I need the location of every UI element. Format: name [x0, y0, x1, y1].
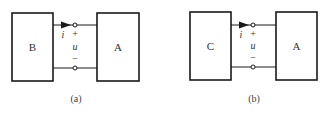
box-b-label: B: [29, 41, 36, 53]
minus-sign-b: −: [250, 52, 256, 63]
terminal-bottom-b: [251, 65, 255, 69]
caption-b: (b): [248, 93, 260, 105]
circuit-diagram: B A i + u − (a) C A i + u − (b): [0, 0, 325, 114]
terminal-bottom-a: [73, 66, 77, 70]
terminal-top-b: [251, 23, 255, 27]
voltage-label-a: u: [73, 41, 78, 52]
figure-b: C A i + u − (b): [190, 12, 317, 105]
box-c-label: C: [207, 40, 214, 52]
current-arrow-icon: [239, 22, 249, 29]
current-arrow-icon: [61, 22, 71, 29]
box-a-right-label: A: [293, 40, 301, 52]
minus-sign-a: −: [72, 53, 78, 64]
box-a-left-label: A: [114, 41, 122, 53]
plus-sign-b: +: [250, 28, 256, 39]
current-label-a: i: [62, 29, 65, 40]
voltage-label-b: u: [251, 40, 256, 51]
terminal-top-a: [73, 23, 77, 27]
current-label-b: i: [240, 29, 243, 40]
caption-a: (a): [70, 93, 81, 105]
figure-a: B A i + u − (a): [12, 13, 139, 105]
plus-sign-a: +: [72, 28, 78, 39]
